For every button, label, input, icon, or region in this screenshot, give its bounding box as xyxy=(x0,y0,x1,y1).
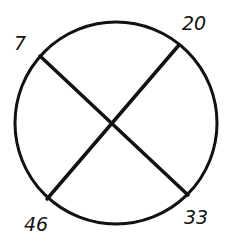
diagram-canvas: 7 20 46 33 xyxy=(0,0,230,249)
chord-20-to-46 xyxy=(47,45,179,199)
label-endpoint-7: 7 xyxy=(14,32,26,54)
label-endpoint-33: 33 xyxy=(184,206,208,228)
chord-7-to-33 xyxy=(40,56,188,195)
label-endpoint-20: 20 xyxy=(182,12,206,34)
label-endpoint-46: 46 xyxy=(24,213,48,235)
